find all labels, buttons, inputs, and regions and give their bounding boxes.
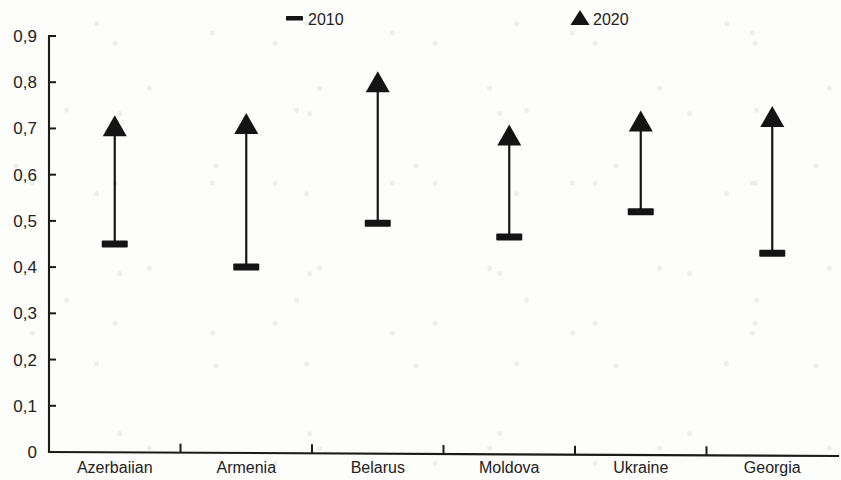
marker-2020 bbox=[497, 124, 521, 145]
data-point-group bbox=[496, 124, 522, 240]
y-axis: 00,10,20,30,40,50,60,70,80,9 bbox=[13, 27, 56, 462]
marker-2020 bbox=[629, 111, 653, 132]
data-point-group bbox=[233, 113, 259, 271]
data-point-group bbox=[628, 111, 654, 216]
marker-2010 bbox=[628, 208, 654, 215]
marker-2020 bbox=[366, 71, 390, 92]
legend-item-2020: 2020 bbox=[571, 10, 629, 28]
y-tick-label: 0,9 bbox=[13, 27, 37, 46]
marker-2010 bbox=[233, 264, 259, 271]
dumbbell-arrow-chart: 2010 2020 00,10,20,30,40,50,60,70,80,9 A… bbox=[0, 0, 841, 480]
y-tick-label: 0 bbox=[28, 443, 37, 462]
x-category-label: Ukraine bbox=[613, 459, 668, 476]
legend-label-2020: 2020 bbox=[593, 11, 629, 28]
data-series-group bbox=[102, 71, 786, 270]
x-category-label-group: AzerbaiianArmeniaBelarusMoldovaUkraineGe… bbox=[77, 459, 801, 476]
data-point-group bbox=[759, 106, 785, 257]
x-category-label: Armenia bbox=[216, 459, 276, 476]
x-category-label: Azerbaiian bbox=[77, 459, 153, 476]
marker-2010 bbox=[759, 250, 785, 257]
marker-2020 bbox=[760, 106, 784, 127]
y-tick-label: 0,1 bbox=[13, 397, 37, 416]
y-tick-label: 0,4 bbox=[13, 258, 37, 277]
data-point-group bbox=[365, 71, 391, 226]
y-tick-label: 0,3 bbox=[13, 304, 37, 323]
legend-triangle-icon bbox=[571, 10, 590, 25]
marker-2020 bbox=[234, 113, 258, 134]
y-tick-label: 0,5 bbox=[13, 212, 37, 231]
legend-dash-icon bbox=[286, 16, 303, 21]
marker-2010 bbox=[365, 220, 391, 227]
x-category-label: Belarus bbox=[351, 459, 405, 476]
data-point-group bbox=[102, 115, 128, 247]
marker-2020 bbox=[103, 115, 127, 136]
y-tick-label: 0,8 bbox=[13, 73, 37, 92]
marker-2010 bbox=[102, 241, 128, 248]
x-category-label: Georgia bbox=[744, 459, 801, 476]
chart-legend: 2010 2020 bbox=[286, 10, 629, 28]
x-category-label: Moldova bbox=[479, 459, 540, 476]
legend-item-2010: 2010 bbox=[286, 11, 344, 28]
chart-container: 2010 2020 00,10,20,30,40,50,60,70,80,9 A… bbox=[0, 0, 841, 480]
y-tick-label: 0,2 bbox=[13, 351, 37, 370]
legend-label-2010: 2010 bbox=[308, 11, 344, 28]
marker-2010 bbox=[496, 234, 522, 241]
x-axis: AzerbaiianArmeniaBelarusMoldovaUkraineGe… bbox=[49, 444, 838, 476]
y-tick-label: 0,6 bbox=[13, 166, 37, 185]
y-tick-label: 0,7 bbox=[13, 119, 37, 138]
